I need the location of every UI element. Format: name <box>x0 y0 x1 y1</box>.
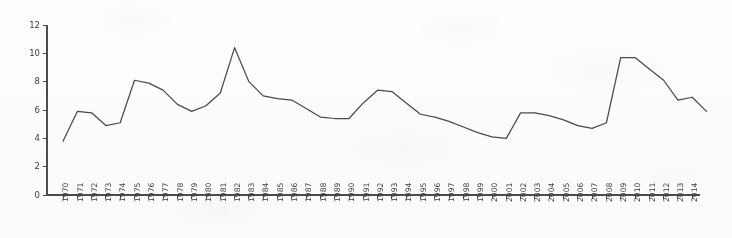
x-tick-label: 2009 <box>619 183 628 202</box>
y-axis-tick-labels: 024681012 <box>29 20 40 200</box>
y-tick-label: 8 <box>35 76 40 86</box>
x-tick-label: 1994 <box>404 183 413 202</box>
y-axis-group: 024681012 <box>29 20 47 200</box>
y-tick-label: 4 <box>35 133 40 143</box>
x-tick-label: 2002 <box>519 183 528 202</box>
x-tick-label: 2007 <box>590 183 599 202</box>
x-tick-label: 1979 <box>190 183 199 202</box>
x-tick-label: 1983 <box>247 183 256 202</box>
x-tick-label: 1987 <box>304 183 313 202</box>
x-tick-label: 1973 <box>104 183 113 202</box>
x-tick-label: 2000 <box>490 183 499 202</box>
line-chart-canvas: 024681012 197019711972197319741975197619… <box>0 0 732 238</box>
x-tick-label: 1982 <box>233 183 242 202</box>
x-tick-label: 2006 <box>576 183 585 202</box>
x-tick-label: 1999 <box>476 183 485 202</box>
x-tick-label: 2010 <box>633 183 642 202</box>
x-tick-label: 2012 <box>662 183 671 202</box>
y-tick-label: 0 <box>35 190 40 200</box>
y-tick-label: 2 <box>35 161 40 171</box>
x-tick-label: 1990 <box>347 183 356 202</box>
x-tick-label: 2003 <box>533 183 542 202</box>
y-tick-label: 12 <box>29 20 40 30</box>
data-series-group <box>63 48 707 142</box>
y-tick-label: 10 <box>29 48 40 58</box>
x-tick-label: 1998 <box>462 183 471 202</box>
x-tick-label: 1985 <box>276 183 285 202</box>
data-line-rate <box>63 48 707 142</box>
x-tick-label: 1978 <box>176 183 185 202</box>
x-tick-label: 1980 <box>204 183 213 202</box>
x-tick-label: 2004 <box>547 183 556 202</box>
x-tick-label: 1986 <box>290 183 299 202</box>
x-tick-label: 1996 <box>433 183 442 202</box>
x-tick-label: 2013 <box>676 183 685 202</box>
x-tick-label: 1974 <box>118 183 127 202</box>
x-tick-label: 1992 <box>376 183 385 202</box>
x-tick-label: 1971 <box>76 183 85 202</box>
y-tick-label: 6 <box>35 105 40 115</box>
x-tick-label: 1995 <box>419 183 428 202</box>
x-tick-label: 1981 <box>219 183 228 202</box>
x-tick-label: 2014 <box>690 183 699 202</box>
x-tick-label: 2001 <box>505 183 514 202</box>
x-tick-label: 2005 <box>562 183 571 202</box>
x-tick-label: 1975 <box>133 183 142 202</box>
x-tick-label: 1991 <box>362 183 371 202</box>
x-tick-label: 1976 <box>147 183 156 202</box>
x-tick-label: 1997 <box>447 183 456 202</box>
x-tick-label: 1988 <box>319 183 328 202</box>
x-tick-label: 1970 <box>61 183 70 202</box>
x-tick-label: 1984 <box>261 183 270 202</box>
x-tick-label: 2011 <box>648 183 657 202</box>
x-axis-tick-labels: 1970197119721973197419751976197719781979… <box>61 183 699 202</box>
chart-figure: 024681012 197019711972197319741975197619… <box>0 0 732 238</box>
x-tick-label: 1993 <box>390 183 399 202</box>
x-tick-label: 1977 <box>161 183 170 202</box>
x-tick-label: 1972 <box>90 183 99 202</box>
x-tick-label: 2008 <box>605 183 614 202</box>
x-tick-label: 1989 <box>333 183 342 202</box>
x-axis-group: 1970197119721973197419751976197719781979… <box>47 183 700 202</box>
y-axis-ticks <box>43 25 47 195</box>
